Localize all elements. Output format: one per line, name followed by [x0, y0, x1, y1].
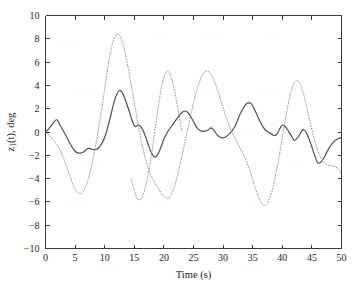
x-tick-label: 45 [307, 252, 317, 263]
x-tick-label: 20 [159, 252, 169, 263]
x-tick-label: 0 [43, 252, 48, 263]
x-tick-label: 5 [73, 252, 78, 263]
y-tick-label: 4 [35, 80, 40, 91]
x-tick-label: 50 [337, 252, 347, 263]
bleedthrough-text: …… [205, 32, 223, 42]
bleedthrough-text: …… [172, 162, 190, 172]
y-tick-label: −2 [29, 150, 40, 161]
x-tick-label: 15 [129, 252, 139, 263]
bleedthrough-text: …… [60, 34, 78, 44]
y-tick-label: 8 [35, 33, 40, 44]
bleedthrough-text: …… [74, 87, 92, 97]
bleedthrough-text: …… [248, 195, 266, 205]
chart-background [0, 0, 359, 294]
y-axis-title-rest: (t), deg [5, 112, 17, 143]
y-tick-label: 2 [35, 103, 40, 114]
x-tick-label: 30 [218, 252, 228, 263]
y-tick-label: −8 [29, 220, 40, 231]
y-tick-label: 0 [35, 127, 40, 138]
x-tick-label: 10 [100, 252, 110, 263]
bleedthrough-text: …… [238, 124, 256, 134]
bleedthrough-text: …… [150, 200, 168, 210]
bleedthrough-text: …… [262, 30, 280, 40]
x-tick-label: 40 [277, 252, 287, 263]
chart-figure: ……………………………………………………………………………………………… 051… [0, 0, 359, 294]
bleedthrough-text: …… [80, 160, 98, 170]
bleedthrough-text: …… [150, 28, 168, 38]
bleedthrough-text: …… [240, 264, 258, 274]
line-chart: ……………………………………………………………………………………………… 051… [0, 0, 359, 294]
x-tick-label: 25 [189, 252, 199, 263]
x-tick-label: 35 [248, 252, 258, 263]
x-axis-title: Time (s) [176, 269, 212, 281]
y-tick-label: 10 [30, 10, 40, 21]
y-tick-label: −10 [24, 243, 40, 254]
bleedthrough-text: …… [286, 158, 304, 168]
y-tick-label: 6 [35, 57, 40, 68]
bleedthrough-text: …… [258, 88, 276, 98]
bleedthrough-text: …… [66, 197, 84, 207]
bleedthrough-text: …… [62, 122, 80, 132]
y-tick-label: −6 [29, 196, 40, 207]
y-tick-label: −4 [29, 173, 40, 184]
